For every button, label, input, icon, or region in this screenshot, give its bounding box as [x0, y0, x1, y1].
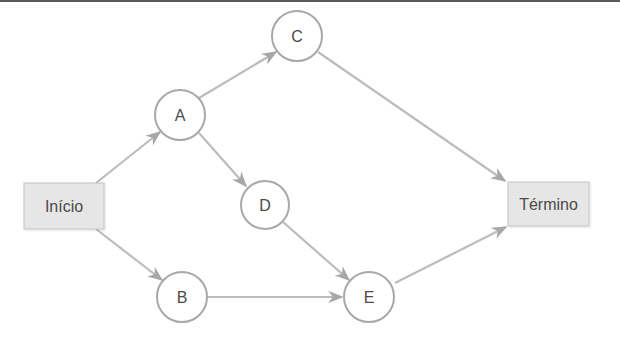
edge-inicio-b	[96, 229, 162, 280]
edge-a-d	[199, 133, 246, 186]
node-b[interactable]: B	[157, 272, 207, 322]
network-diagram: Início Término A C D B E	[0, 0, 620, 352]
node-e[interactable]: E	[344, 272, 394, 322]
node-d[interactable]: D	[241, 181, 289, 229]
node-inicio-label: Início	[45, 198, 83, 215]
node-c-label: C	[291, 28, 303, 45]
edge-d-e	[283, 222, 349, 280]
node-termino[interactable]: Término	[508, 182, 589, 226]
edge-a-c	[199, 52, 276, 98]
node-a-label: A	[175, 107, 186, 124]
node-b-label: B	[177, 289, 188, 306]
node-inicio[interactable]: Início	[24, 183, 104, 229]
edge-c-termino	[318, 52, 505, 181]
node-a[interactable]: A	[155, 90, 205, 140]
node-e-label: E	[364, 289, 375, 306]
node-termino-label: Término	[519, 196, 578, 213]
edge-inicio-a	[96, 132, 160, 183]
edge-e-termino	[395, 227, 506, 283]
node-c[interactable]: C	[272, 11, 322, 61]
node-d-label: D	[259, 197, 271, 214]
